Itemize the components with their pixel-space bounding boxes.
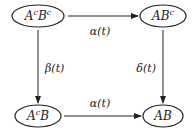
edge-AcB-to-AB: α(t) (64, 97, 141, 116)
state-diagram: AcBc ABc AcB AB α(t) β(t) δ(t) α(t) (0, 0, 193, 136)
node-AcBc: AcBc (12, 5, 64, 27)
edge-AcBc-to-AcB: β(t) (38, 30, 64, 103)
edge-label: β(t) (44, 62, 64, 75)
node-label: AB (153, 109, 172, 123)
edge-label: α(t) (90, 25, 110, 38)
node-AcB: AcB (15, 105, 61, 127)
node-label: AcB (26, 108, 49, 123)
edge-AcBc-to-ABc: α(t) (68, 16, 138, 38)
node-AB: AB (143, 105, 183, 127)
node-ABc: ABc (140, 5, 186, 27)
node-label: ABc (151, 8, 174, 23)
node-label: AcBc (24, 8, 52, 23)
edge-label: α(t) (90, 97, 110, 110)
edge-ABc-to-AB: δ(t) (136, 30, 163, 103)
edge-label: δ(t) (136, 62, 156, 75)
